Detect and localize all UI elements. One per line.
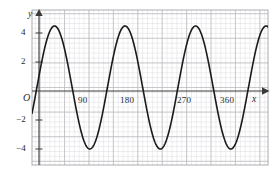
x-axis-label: x bbox=[252, 95, 256, 105]
y-tick-label-minus-4: −4 bbox=[16, 144, 26, 153]
y-tick-label-minus-2: −2 bbox=[16, 115, 26, 124]
x-tick-label-180: 180 bbox=[120, 96, 134, 105]
x-tick-label-90: 90 bbox=[78, 96, 87, 105]
x-tick-label-360: 360 bbox=[220, 96, 234, 105]
trig-graph-figure: 4 2 −2 −4 O 90 180 270 360 x y bbox=[0, 0, 276, 176]
x-tick-label-270: 270 bbox=[177, 96, 191, 105]
y-tick-label-4: 4 bbox=[21, 28, 26, 37]
graph-canvas bbox=[0, 0, 276, 176]
y-tick-label-2: 2 bbox=[21, 57, 26, 66]
y-axis-label: y bbox=[28, 10, 32, 20]
origin-label: O bbox=[23, 93, 30, 103]
